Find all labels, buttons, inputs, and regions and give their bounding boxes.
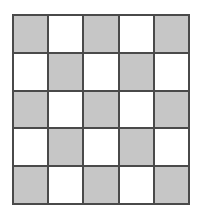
checkerboard-cell — [84, 167, 119, 205]
checkerboard-cell — [155, 167, 190, 205]
checkerboard-cell — [14, 16, 49, 54]
checkerboard-cell — [14, 129, 49, 167]
checkerboard-cell — [155, 54, 190, 92]
checkerboard-cell — [120, 167, 155, 205]
checkerboard-cell — [155, 16, 190, 54]
checkerboard-cell — [49, 167, 84, 205]
checkerboard-cell — [155, 92, 190, 130]
checkerboard-cell — [84, 129, 119, 167]
checkerboard-cell — [84, 92, 119, 130]
checkerboard-cell — [49, 16, 84, 54]
checkerboard-cell — [14, 92, 49, 130]
checkerboard-cell — [155, 129, 190, 167]
checkerboard-cell — [120, 92, 155, 130]
checkerboard-cell — [84, 54, 119, 92]
checkerboard-cell — [120, 54, 155, 92]
checkerboard-cell — [14, 54, 49, 92]
checkerboard-figure — [12, 14, 190, 205]
checkerboard-cell — [14, 167, 49, 205]
checkerboard-cell — [49, 92, 84, 130]
checkerboard-cell — [49, 54, 84, 92]
checkerboard-grid — [12, 14, 190, 205]
checkerboard-cell — [120, 16, 155, 54]
checkerboard-cell — [120, 129, 155, 167]
checkerboard-cell — [49, 129, 84, 167]
checkerboard-cell — [84, 16, 119, 54]
